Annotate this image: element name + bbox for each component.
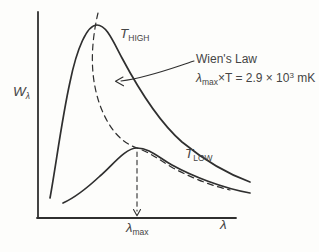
formula-equation-text: ×T = 2.9 × 10 — [218, 71, 290, 85]
wien-pointer-arrow — [116, 61, 195, 86]
wien-law-formula: λmax×T = 2.9 × 103 mK — [196, 68, 315, 91]
y-axis-symbol: W — [13, 84, 26, 99]
lambda-max-label: λmax — [126, 220, 148, 237]
y-axis-subscript: λ — [26, 91, 30, 101]
pointer-arrowhead-icon — [116, 77, 124, 86]
lambda-max-subscript: max — [132, 227, 148, 237]
t-low-curve — [63, 148, 250, 203]
t-low-subscript: LOW — [193, 153, 212, 163]
x-axis-label: λ — [220, 217, 227, 232]
formula-max-subscript: max — [202, 77, 218, 87]
lambda-max-drop-arrow — [134, 152, 141, 216]
wien-law-annotation: Wien's Law λmax×T = 2.9 × 103 mK — [196, 51, 315, 90]
t-low-label: TLOW — [185, 146, 213, 163]
wien-law-title: Wien's Law — [196, 51, 315, 68]
t-high-symbol: T — [120, 26, 128, 41]
t-low-symbol: T — [185, 146, 193, 161]
plot-canvas — [0, 0, 319, 252]
wien-law-blackbody-figure: Wλ THIGH Wien's Law λmax×T = 2.9 × 103 m… — [0, 0, 319, 252]
t-high-label: THIGH — [120, 26, 150, 43]
y-axis-label: Wλ — [13, 84, 30, 101]
pointer-arrow-shaft — [121, 61, 194, 81]
formula-unit: mK — [294, 71, 315, 85]
t-high-subscript: HIGH — [128, 33, 149, 43]
